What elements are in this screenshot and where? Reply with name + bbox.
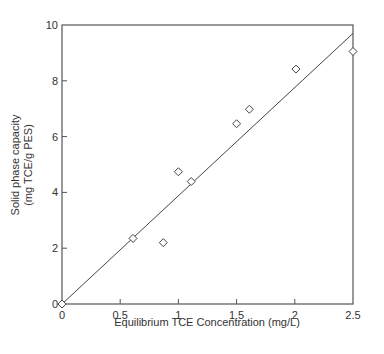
scatter-chart: 00.511.522.5 0246810 Equilibrium TCE Con… <box>0 0 384 354</box>
data-point-diamond <box>159 239 167 247</box>
y-axis-label-line2: (mg TCE/g PES) <box>22 124 34 206</box>
y-tick-label: 4 <box>52 186 58 198</box>
x-axis-label: Equilibrium TCE Concentration (mg/L) <box>114 316 300 328</box>
data-point-diamond <box>187 178 195 186</box>
y-axis-ticks: 0246810 <box>46 19 67 310</box>
data-point-diamond <box>233 120 241 128</box>
y-tick-label: 0 <box>52 298 58 310</box>
y-tick-label: 2 <box>52 242 58 254</box>
data-point-diamond <box>174 168 182 176</box>
fit-line <box>62 33 353 304</box>
y-axis-label: Solid phase capacity (mg TCE/g PES) <box>9 114 34 215</box>
data-point-diamond <box>292 65 300 73</box>
y-tick-label: 8 <box>52 75 58 87</box>
x-tick-label: 2.5 <box>345 309 360 321</box>
data-points <box>58 48 357 308</box>
y-tick-label: 10 <box>46 19 58 31</box>
plot-frame <box>62 25 353 304</box>
y-axis-label-line1: Solid phase capacity <box>9 114 21 215</box>
data-point-diamond <box>245 105 253 113</box>
y-tick-label: 6 <box>52 131 58 143</box>
data-point-diamond <box>349 48 357 56</box>
x-tick-label: 0 <box>59 309 65 321</box>
